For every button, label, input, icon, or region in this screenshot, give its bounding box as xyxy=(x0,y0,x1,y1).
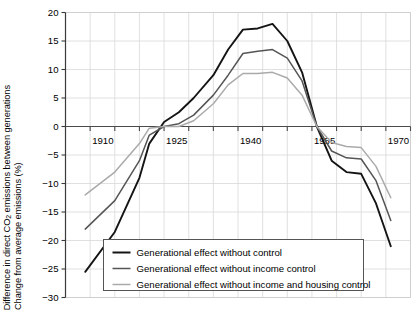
plot-area: −30−25−20−15−10−505101520191019251940195… xyxy=(0,0,419,320)
y-axis-tick-label: −15 xyxy=(42,206,58,217)
chart-figure: Difference in direct CO2 emissions betwe… xyxy=(0,0,419,320)
y-axis-tick-label: −30 xyxy=(42,292,58,303)
legend-label-3: Generational effect without income and h… xyxy=(137,279,371,290)
legend: Generational effect without controlGener… xyxy=(104,240,371,291)
y-axis-tick-label: 15 xyxy=(48,35,59,46)
y-axis-tick-label: −20 xyxy=(42,235,58,246)
y-axis: −30−25−20−15−10−505101520 xyxy=(42,7,65,303)
x-axis-tick-label: 1910 xyxy=(92,135,113,146)
legend-label-2: Generational effect without income contr… xyxy=(137,263,316,274)
y-axis-tick-label: 0 xyxy=(53,121,58,132)
x-axis-tick-label: 1970 xyxy=(388,135,409,146)
legend-label-1: Generational effect without control xyxy=(137,247,282,258)
zero-axis-line xyxy=(66,127,411,132)
y-axis-tick-label: −10 xyxy=(42,178,58,189)
x-axis-tick-label: 1940 xyxy=(240,135,261,146)
x-axis-tick-label: 1925 xyxy=(166,135,187,146)
y-axis-tick-label: 10 xyxy=(48,64,59,75)
y-axis-tick-label: −25 xyxy=(42,263,58,274)
y-axis-tick-label: 20 xyxy=(48,7,59,18)
y-axis-tick-label: −5 xyxy=(48,149,59,160)
y-axis-tick-label: 5 xyxy=(53,92,58,103)
